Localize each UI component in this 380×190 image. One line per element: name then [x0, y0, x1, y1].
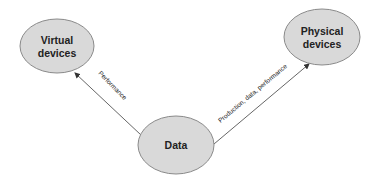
node-label-line1: Physical: [301, 25, 344, 37]
node-ellipse: [20, 19, 94, 73]
node-label-line2: devices: [38, 47, 77, 59]
diagram-canvas: Performance Production, data, performanc…: [0, 0, 380, 190]
edge-label-performance: Performance: [97, 69, 128, 101]
edge-data-to-virtual: Performance: [75, 69, 141, 135]
node-virtual-devices: Virtual devices: [20, 19, 94, 73]
edge-label-production-data-performance: Production, data, performance: [217, 62, 289, 125]
node-label-line1: Virtual: [41, 34, 74, 46]
node-data: Data: [138, 116, 214, 174]
node-label-line2: devices: [303, 38, 342, 50]
arrow-line: [214, 64, 309, 144]
edge-data-to-physical: Production, data, performance: [214, 62, 309, 144]
node-physical-devices: Physical devices: [284, 9, 360, 65]
node-ellipse: [284, 9, 360, 65]
node-label: Data: [165, 139, 188, 151]
